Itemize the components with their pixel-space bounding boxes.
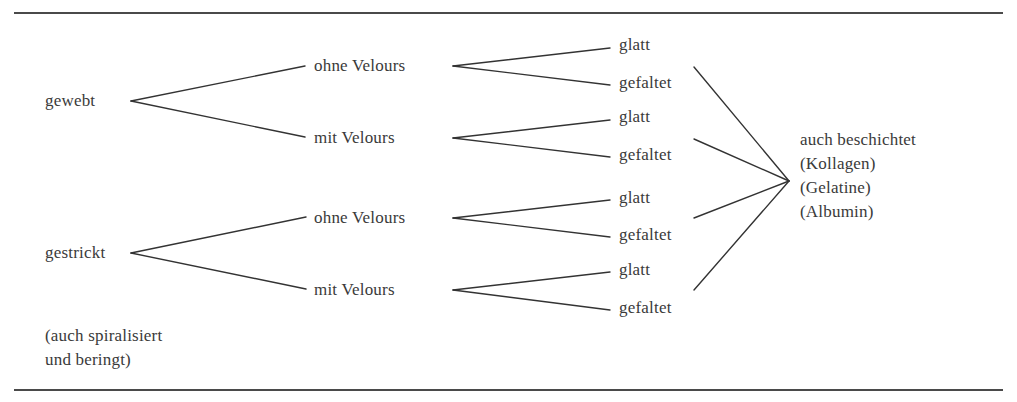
edge-1-mit-glatt (453, 120, 610, 138)
textile-classification-diagram: gewebt gestrickt ohne Velours mit Velour… (0, 0, 1017, 402)
edge-converge-2 (694, 139, 789, 181)
edge-gewebt-mit (131, 101, 305, 137)
edge-1-ohne-gefaltet (453, 66, 610, 85)
edge-gestrickt-mit (131, 253, 306, 289)
node-2-mit-glatt: glatt (619, 258, 650, 282)
note-line-1: (auch spiralisiert (45, 324, 162, 348)
node-gestrickt-mit-velours: mit Velours (314, 278, 395, 302)
edge-2-mit-gefaltet (453, 290, 610, 310)
coating-line-1: auch beschichtet (800, 128, 916, 152)
node-1-mit-gefaltet: gefaltet (619, 143, 672, 167)
edge-1-ohne-glatt (453, 48, 610, 66)
coating-line-2: (Kollagen) (800, 152, 916, 176)
edge-2-mit-glatt (453, 272, 610, 290)
note-block: (auch spiralisiert und beringt) (45, 324, 162, 372)
node-gestrickt: gestrickt (45, 241, 105, 265)
node-gewebt-ohne-velours: ohne Velours (314, 54, 405, 78)
node-gestrickt-ohne-velours: ohne Velours (314, 206, 405, 230)
node-2-ohne-glatt: glatt (619, 186, 650, 210)
node-1-ohne-gefaltet: gefaltet (619, 71, 672, 95)
edge-1-mit-gefaltet (453, 138, 610, 157)
edge-converge-4 (694, 181, 789, 290)
edge-gewebt-ohne (131, 66, 305, 101)
edge-gestrickt-ohne (131, 217, 306, 253)
node-1-ohne-glatt: glatt (619, 33, 650, 57)
edge-2-ohne-glatt (453, 200, 610, 218)
coating-block: auch beschichtet (Kollagen) (Gelatine) (… (800, 128, 916, 224)
note-line-2: und beringt) (45, 348, 162, 372)
node-2-ohne-gefaltet: gefaltet (619, 223, 672, 247)
node-1-mit-glatt: glatt (619, 105, 650, 129)
edge-converge-1 (694, 67, 789, 181)
coating-line-3: (Gelatine) (800, 176, 916, 200)
edge-2-ohne-gefaltet (453, 218, 610, 237)
edge-converge-3 (694, 181, 789, 218)
node-2-mit-gefaltet: gefaltet (619, 296, 672, 320)
node-gewebt: gewebt (45, 89, 95, 113)
node-gewebt-mit-velours: mit Velours (314, 126, 395, 150)
coating-line-4: (Albumin) (800, 200, 916, 224)
